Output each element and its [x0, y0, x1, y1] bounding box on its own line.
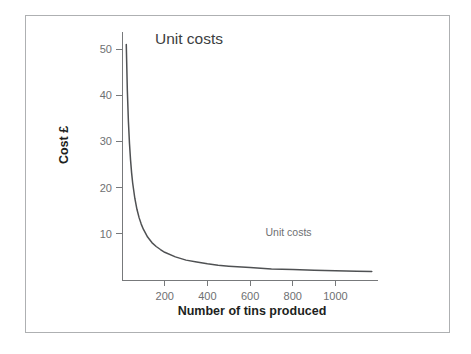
chart-title: Unit costs — [155, 30, 223, 47]
x-axis-title: Number of tins produced — [178, 304, 327, 318]
y-axis-tick-label: 50 — [100, 43, 112, 55]
x-axis-tick-label: 400 — [198, 290, 216, 302]
chart-frame: 10203040502004006008001000Unit costsUnit… — [25, 15, 450, 333]
y-axis-tick-label: 40 — [100, 89, 112, 101]
series-label-unit-costs: Unit costs — [265, 226, 311, 238]
y-axis-title: Cost £ — [57, 126, 71, 164]
x-axis-tick-label: 600 — [241, 290, 259, 302]
y-axis-tick-label: 20 — [100, 182, 112, 194]
unit-costs-curve — [126, 44, 372, 271]
unit-costs-line-chart: 10203040502004006008001000Unit costsUnit… — [26, 16, 449, 332]
y-axis-tick-label: 10 — [100, 228, 112, 240]
x-axis-tick-label: 200 — [156, 290, 174, 302]
figure-root: 10203040502004006008001000Unit costsUnit… — [0, 0, 471, 354]
x-axis-tick-label: 800 — [284, 290, 302, 302]
x-axis-tick-label: 1000 — [323, 290, 347, 302]
y-axis-tick-label: 30 — [100, 135, 112, 147]
